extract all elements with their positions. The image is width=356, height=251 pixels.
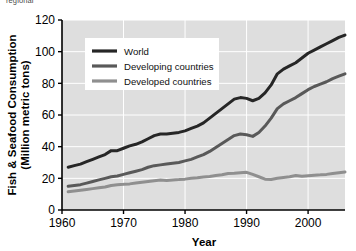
legend-label-world: World <box>124 46 149 57</box>
legend-label-developing-countries: Developing countries <box>124 61 214 72</box>
y-tick-label: 20 <box>42 172 56 186</box>
line-chart: 020406080100120 19601970198019902000 Yea… <box>0 0 356 251</box>
x-axis-tick-labels: 19601970198019902000 <box>49 216 322 230</box>
y-tick-label: 40 <box>42 140 56 154</box>
x-tick-label: 1960 <box>49 216 76 230</box>
y-axis-tick-labels: 020406080100120 <box>35 13 55 217</box>
y-axis-title-line2: (Million metric tons) <box>19 60 31 169</box>
x-tick-label: 2000 <box>295 216 322 230</box>
y-tick-label: 100 <box>35 45 55 59</box>
chart-legend: WorldDeveloping countriesDeveloped count… <box>85 38 219 90</box>
y-tick-label: 120 <box>35 13 55 27</box>
x-axis-title: Year <box>192 236 217 248</box>
x-tick-label: 1990 <box>233 216 260 230</box>
legend-label-developed-countries: Developed countries <box>124 76 212 87</box>
y-tick-label: 80 <box>42 77 56 91</box>
x-tick-label: 1980 <box>172 216 199 230</box>
x-tick-label: 1970 <box>110 216 137 230</box>
y-tick-label: 60 <box>42 108 56 122</box>
y-axis-title-line1: Fish & Seafood Consumption <box>6 35 18 196</box>
figure-root: regional 020406080100120 196019701980199… <box>0 0 356 251</box>
